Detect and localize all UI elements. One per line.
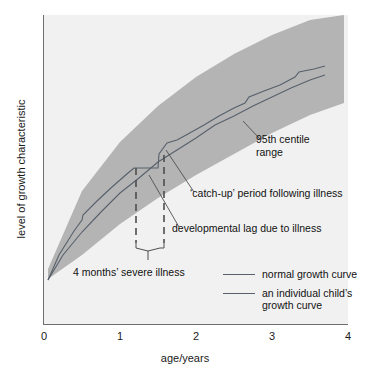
legend-item-individual-child-curve: an individual child’s growth curve — [223, 287, 357, 312]
legend-label-normal-growth-curve: normal growth curve — [262, 268, 357, 281]
annotation-catch-up-period: ‘catch-up’ period following illness — [190, 187, 343, 200]
growth-chart-figure: 0 1 2 3 4 age/years level of growth char… — [0, 0, 370, 377]
x-tick-label-3: 3 — [262, 330, 282, 342]
annotation-severe-illness: 4 months’ severe illness — [73, 266, 185, 279]
annotation-developmental-lag: developmental lag due to illness — [172, 222, 321, 235]
legend-label-individual-child-curve-line2: growth curve — [262, 299, 322, 311]
legend-line-swatch-icon — [223, 293, 255, 294]
annotation-95th-centile: 95th centile range — [256, 133, 310, 158]
x-tick-label-4: 4 — [338, 330, 358, 342]
legend-label-individual-child-curve-line1: an individual child’s — [262, 287, 352, 299]
legend: normal growth curve an individual child’… — [223, 268, 357, 318]
annotation-95th-centile-line2: range — [256, 146, 310, 159]
x-axis-title: age/years — [0, 352, 370, 364]
x-tick-label-2: 2 — [186, 330, 206, 342]
legend-item-normal-growth-curve: normal growth curve — [223, 268, 357, 281]
x-tick-label-0: 0 — [34, 330, 54, 342]
x-tick-label-1: 1 — [110, 330, 130, 342]
y-axis-title: level of growth characteristic — [15, 69, 27, 269]
annotation-95th-centile-line1: 95th centile — [256, 133, 310, 146]
legend-label-individual-child-curve: an individual child’s growth curve — [262, 287, 352, 312]
legend-line-swatch-icon — [223, 274, 255, 275]
